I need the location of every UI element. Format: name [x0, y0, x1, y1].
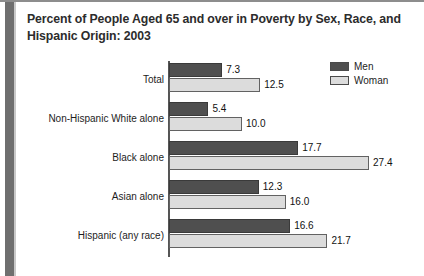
bar-row: 7.3 [169, 63, 262, 77]
bar-row: 27.4 [169, 156, 409, 170]
bar-row: 5.4 [169, 102, 248, 116]
bar-men [169, 219, 290, 233]
bar-value-label: 12.5 [260, 78, 283, 92]
category-label: Total [16, 74, 164, 85]
category-label: Black alone [16, 152, 164, 163]
bar-value-label: 16.6 [290, 219, 313, 233]
bar-woman [169, 156, 369, 170]
bar-value-label: 5.4 [208, 102, 226, 116]
bar-men [169, 141, 298, 155]
bar-row: 12.5 [169, 78, 300, 92]
plot-area: Total7.312.5Non-Hispanic White alone5.41… [0, 2, 424, 276]
category-label: Non-Hispanic White alone [16, 113, 164, 124]
bar-row: 21.7 [169, 234, 367, 248]
bar-value-label: 21.7 [327, 234, 350, 248]
bar-woman [169, 117, 242, 131]
category-label: Asian alone [16, 191, 164, 202]
bar-woman [169, 234, 327, 248]
bar-men [169, 102, 208, 116]
bar-men [169, 63, 222, 77]
bar-woman [169, 195, 286, 209]
bar-row: 10.0 [169, 117, 282, 131]
chart-figure: Percent of People Aged 65 and over in Po… [0, 0, 424, 276]
bar-row: 17.7 [169, 141, 338, 155]
bar-row: 12.3 [169, 180, 299, 194]
bar-row: 16.0 [169, 195, 326, 209]
bar-woman [169, 78, 260, 92]
bar-men [169, 180, 259, 194]
bar-value-label: 7.3 [222, 63, 240, 77]
bar-value-label: 12.3 [259, 180, 282, 194]
bar-row: 16.6 [169, 219, 330, 233]
bar-value-label: 10.0 [242, 117, 265, 131]
category-label: Hispanic (any race) [16, 230, 164, 241]
bar-value-label: 16.0 [286, 195, 309, 209]
bar-value-label: 27.4 [369, 156, 392, 170]
bar-value-label: 17.7 [298, 141, 321, 155]
